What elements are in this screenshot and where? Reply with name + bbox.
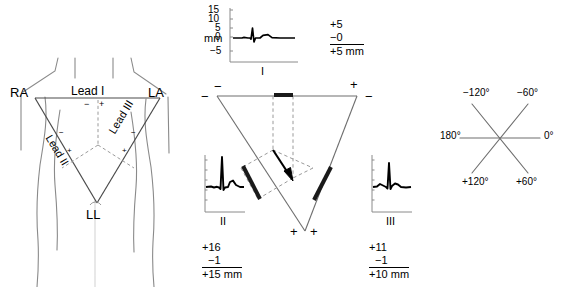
axis-label-plus-120: +120°	[462, 177, 489, 187]
axis-label-0: 0°	[544, 131, 554, 141]
torso-lead3-minus-sign: −	[131, 129, 136, 137]
hexaxial-reference-panel: −120° −60° 180° 0° +120° +60°	[440, 0, 565, 287]
torso-ll-mark	[90, 202, 101, 205]
lead2-sum-block: +16 −1 +15 mm	[202, 241, 242, 281]
lead1-tick-minus5: −5	[210, 46, 221, 56]
lead1-trace-label: I	[261, 66, 264, 77]
triangle-topright-outer-sign: −	[365, 90, 373, 103]
lead1-sum-negative: −0	[330, 31, 364, 44]
triangle-bottom-right-sign: +	[310, 225, 318, 238]
left-shoulder-line	[23, 58, 58, 92]
triangle-topleft-outer-sign: −	[201, 90, 209, 103]
lead2-sum-negative: −1	[202, 254, 242, 267]
lead3-sum-total: +10 mm	[369, 267, 409, 281]
torso-right-contour	[145, 99, 154, 287]
mean-qrs-vector-arrow	[273, 150, 293, 181]
lead1-trace-group	[230, 8, 298, 62]
lead1-sum-positive: +5	[330, 18, 364, 31]
triangle-side-lead2	[217, 96, 305, 231]
axis-label-minus-60: −60°	[517, 88, 538, 98]
lead3-sum-positive: +11	[369, 241, 409, 254]
lead1-sum-block: +5 −0 +5 mm	[330, 18, 364, 58]
einthoven-triangle-panel: mm 15 10 5 0 −5 I +5 −0 +5 mm − − + − + …	[200, 0, 440, 287]
electrode-label-ll: LL	[86, 208, 100, 221]
lead3-sum-block: +11 −1 +10 mm	[369, 241, 409, 281]
lead2-waveform	[206, 157, 244, 190]
triangle-topright-upper-sign: +	[350, 78, 358, 91]
projection-segment-lead3	[314, 167, 331, 200]
dashed-parallel-upper-left	[241, 150, 273, 168]
torso-lead1-minus-sign: −	[84, 100, 89, 109]
right-arm-line	[168, 97, 169, 153]
lead1-waveform	[233, 28, 295, 42]
dashed-parallel-lower-right	[258, 178, 293, 199]
lead1-sum-total: +5 mm	[330, 44, 364, 58]
lead2-trace-group	[205, 155, 245, 212]
lead1-label: Lead I	[71, 85, 104, 97]
torso-lead2-minus-sign: −	[59, 129, 64, 137]
triangle-topleft-upper-sign: −	[214, 80, 222, 93]
lead2-sum-total: +15 mm	[202, 267, 242, 281]
lead3-trace-group	[372, 155, 412, 212]
axis-label-plus-60: +60°	[516, 177, 537, 187]
torso-lead1-plus-sign: +	[99, 100, 104, 109]
projection-segment-lead2	[243, 166, 260, 199]
torso-lead2-plus-sign: +	[67, 147, 72, 155]
electrode-label-ra: RA	[10, 86, 28, 99]
torso-triangle-lead2-side	[35, 98, 97, 203]
lead2-sum-positive: +16	[202, 241, 242, 254]
lead3-trace-label: III	[386, 216, 395, 227]
lead3-sum-negative: −1	[369, 254, 409, 267]
triangle-side-lead3	[305, 96, 357, 231]
lead2-trace-label: II	[220, 216, 226, 227]
triangle-bottom-left-sign: +	[290, 225, 298, 238]
electrode-label-la: LA	[148, 86, 164, 99]
lead3-waveform	[373, 163, 411, 189]
torso-panel: RA LA LL Lead I Lead II Lead III − + − +…	[0, 0, 200, 287]
torso-dashed-right	[98, 145, 134, 168]
lead1-tick-0: 0	[215, 32, 221, 42]
hexaxial-drawing	[440, 0, 565, 287]
axis-label-180: 180°	[440, 131, 461, 141]
axis-label-minus-120: −120°	[463, 88, 490, 98]
dashed-parallel-right-close	[293, 168, 313, 178]
torso-lead3-plus-sign: +	[122, 147, 127, 155]
torso-drawing	[0, 0, 200, 287]
torso-left-contour	[37, 97, 46, 287]
